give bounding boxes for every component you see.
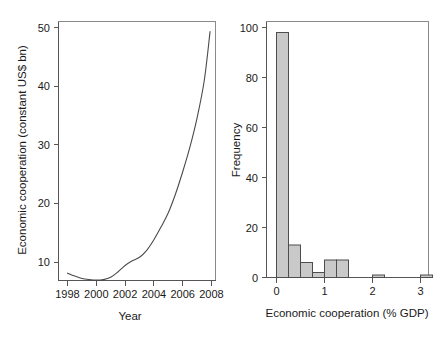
y-tick-label: 20: [246, 222, 258, 234]
y-tick-label: 20: [38, 197, 50, 209]
histogram-bar: [277, 33, 289, 278]
y-axis-title: Frequency: [230, 123, 242, 178]
y-tick-label: 10: [38, 256, 50, 268]
histogram-bar: [373, 275, 385, 278]
x-tick-label: 2006: [170, 288, 194, 300]
x-tick-label: 3: [417, 285, 423, 297]
plot-frame-top-right: [59, 22, 216, 281]
y-tick-label: 80: [246, 72, 258, 84]
x-tick-label: 1: [321, 285, 327, 297]
x-tick-label: 2008: [199, 288, 223, 300]
y-tick-label: 50: [38, 22, 50, 34]
histogram-panel: 0 20 40 60 80 100 0 1 2 3 Economic: [224, 0, 448, 340]
line-chart-svg: 50 40 30 20 10 1998 2000 2002 2004 200: [0, 0, 224, 340]
histogram-bar: [289, 245, 301, 278]
histogram-bar: [325, 260, 337, 278]
histogram-bar: [337, 260, 349, 278]
x-tick-label: 2002: [113, 288, 137, 300]
x-axis-tick-labels: 1998 2000 2002 2004 2006 2008: [55, 288, 223, 300]
y-tick-label: 40: [246, 172, 258, 184]
x-axis-ticks: [277, 278, 421, 283]
line-chart-panel: 50 40 30 20 10 1998 2000 2002 2004 200: [0, 0, 224, 340]
y-axis-ticks: [262, 28, 267, 278]
histogram-bar: [421, 275, 433, 278]
x-axis-tick-labels: 0 1 2 3: [273, 285, 423, 297]
x-axis-title: Year: [118, 310, 141, 322]
x-tick-label: 2000: [84, 288, 108, 300]
histogram-svg: 0 20 40 60 80 100 0 1 2 3 Economic: [224, 0, 448, 340]
y-axis-title: Economic cooperation (constant US$ bn): [16, 45, 28, 255]
y-tick-label: 30: [38, 139, 50, 151]
y-tick-label: 60: [246, 122, 258, 134]
x-tick-label: 2004: [142, 288, 166, 300]
histogram-bar: [313, 273, 325, 278]
economic-cooperation-line: [68, 32, 211, 281]
y-axis-tick-labels: 0 20 40 60 80 100: [240, 22, 258, 284]
plot-frame-top-right: [267, 22, 429, 278]
x-tick-label: 0: [273, 285, 279, 297]
x-tick-label: 2: [369, 285, 375, 297]
histogram-bars: [277, 33, 433, 278]
y-tick-label: 40: [38, 80, 50, 92]
figure-container: 50 40 30 20 10 1998 2000 2002 2004 200: [0, 0, 448, 340]
y-tick-label: 100: [240, 22, 258, 34]
x-axis-ticks: [68, 281, 212, 286]
x-axis-title: Economic cooperation (% GDP): [266, 307, 429, 319]
y-axis-ticks: [54, 28, 59, 263]
histogram-bar: [301, 263, 313, 278]
y-tick-label: 0: [252, 272, 258, 284]
y-axis-tick-labels: 50 40 30 20 10: [38, 22, 50, 269]
x-tick-label: 1998: [55, 288, 79, 300]
